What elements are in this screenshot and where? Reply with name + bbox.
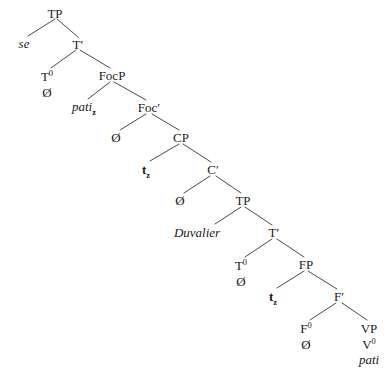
tree-branch-lines	[0, 0, 390, 376]
node-t0-1-null: Ø	[41, 85, 53, 101]
edge-tp2-duvalier	[215, 207, 241, 224]
edge-cbar-c0	[184, 176, 210, 193]
subscript-z: z	[92, 107, 96, 117]
node-trace-z-1: tz	[142, 163, 150, 176]
node-f0-label: F0	[300, 321, 311, 337]
node-t0-2: T0 Ø	[235, 258, 247, 289]
edge-cbar-tp2	[216, 176, 241, 193]
node-cp: CP	[173, 131, 189, 144]
node-se: se	[19, 37, 30, 50]
superscript-zero: 0	[49, 68, 53, 78]
node-c0-null: Ø	[175, 194, 184, 207]
edge-fp-tracez2	[277, 271, 304, 288]
edge-fp-fbar	[308, 271, 337, 289]
node-f0: F0 Ø	[300, 321, 311, 352]
edge-fbar-vp	[342, 303, 367, 320]
edge-tp-tbar1	[57, 19, 78, 37]
node-vp: VP V0 pati	[359, 321, 379, 368]
node-focp: FocP	[99, 69, 126, 82]
edge-tbar2-t02	[245, 239, 272, 257]
node-t0-2-null: Ø	[235, 274, 247, 290]
node-trace-z-2: tz	[269, 290, 277, 303]
node-duvalier: Duvalier	[174, 226, 220, 239]
node-foc-bar: Foc′	[138, 101, 160, 114]
subscript-z: z	[146, 170, 150, 180]
node-c-bar: C′	[207, 163, 219, 176]
edge-tbar1-t01	[51, 50, 76, 68]
node-pati-spec: patiz	[72, 100, 96, 113]
node-fp: FP	[299, 258, 313, 271]
edge-cp-cbar	[183, 144, 211, 162]
node-t0-2-label: T0	[235, 258, 247, 274]
edge-tbar1-focp	[80, 50, 110, 68]
edge-focp-focbar	[114, 82, 146, 100]
syntax-tree-figure: TP se T′ T0 Ø FocP patiz Foc′ Ø CP tz C′…	[0, 0, 390, 376]
edge-focbar-foc0	[120, 114, 146, 130]
node-t-bar-1: T′	[73, 38, 84, 51]
node-f-bar: F′	[334, 290, 344, 303]
node-foc0-null: Ø	[111, 131, 120, 144]
node-vp-label: VP	[359, 321, 379, 337]
subscript-z: z	[273, 297, 277, 307]
superscript-zero: 0	[372, 335, 376, 345]
edge-cp-tracez1	[150, 144, 179, 161]
node-tp-embedded: TP	[235, 194, 250, 207]
edge-tp2-tbar2	[245, 207, 272, 225]
edge-tp-se	[28, 19, 55, 36]
node-pati-verb: pati	[359, 352, 379, 368]
superscript-zero: 0	[243, 257, 247, 267]
superscript-zero: 0	[307, 320, 311, 330]
edge-focp-pati	[88, 82, 110, 99]
node-tp-root: TP	[47, 7, 62, 20]
node-t0-1-label: T0	[41, 69, 53, 85]
edge-focbar-cp	[152, 114, 179, 130]
node-f0-null: Ø	[300, 337, 311, 353]
node-t0-1: T0 Ø	[41, 69, 53, 100]
node-v0-label: V0	[359, 337, 379, 353]
edge-tbar2-fp	[277, 239, 304, 257]
node-t-bar-2: T′	[269, 226, 280, 239]
edge-fbar-f0	[310, 303, 336, 320]
